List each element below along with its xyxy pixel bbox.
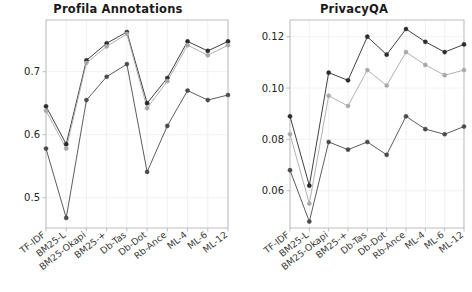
data-point-marker xyxy=(462,68,466,72)
data-point-marker xyxy=(385,83,389,87)
data-point-marker xyxy=(226,93,230,97)
y-tick-label: 0.6 xyxy=(24,129,40,140)
data-point-marker xyxy=(365,68,369,72)
data-point-marker xyxy=(365,140,369,144)
data-point-marker xyxy=(327,71,331,75)
panel-privacyqa: PrivacyQA 0.060.080.100.12TF-IDFBM25-LBM… xyxy=(236,0,472,292)
figure-container: Profila Annotations 0.50.60.7TF-IDFBM25-… xyxy=(0,0,472,292)
data-point-marker xyxy=(423,127,427,131)
data-point-marker xyxy=(423,40,427,44)
data-point-marker xyxy=(346,78,350,82)
data-point-marker xyxy=(44,104,48,108)
data-point-marker xyxy=(84,61,88,65)
y-tick-label: 0.5 xyxy=(24,192,40,203)
y-tick-label: 0.08 xyxy=(262,134,284,145)
data-point-marker xyxy=(385,153,389,157)
data-point-marker xyxy=(443,50,447,54)
data-point-marker xyxy=(165,124,169,128)
data-point-marker xyxy=(185,43,189,47)
data-point-marker xyxy=(105,75,109,79)
data-point-marker xyxy=(185,39,189,43)
data-point-marker xyxy=(165,79,169,83)
data-point-marker xyxy=(84,98,88,102)
data-point-marker xyxy=(226,39,230,43)
data-point-marker xyxy=(288,168,292,172)
data-point-marker xyxy=(105,44,109,48)
series-line xyxy=(46,64,228,218)
data-point-marker xyxy=(206,53,210,57)
data-point-marker xyxy=(327,94,331,98)
data-point-marker xyxy=(44,146,48,150)
data-point-marker xyxy=(125,62,129,66)
data-point-marker xyxy=(462,42,466,46)
data-point-marker xyxy=(185,88,189,92)
data-point-marker xyxy=(206,49,210,53)
data-point-marker xyxy=(443,132,447,136)
series-line xyxy=(46,32,228,144)
data-point-marker xyxy=(64,146,68,150)
y-tick-label: 0.06 xyxy=(262,185,284,196)
data-point-marker xyxy=(64,142,68,146)
data-point-marker xyxy=(365,35,369,39)
data-point-marker xyxy=(385,53,389,57)
data-point-marker xyxy=(327,140,331,144)
data-point-marker xyxy=(423,63,427,67)
series-line xyxy=(290,29,464,186)
chart-canvas-left: 0.50.60.7TF-IDFBM25-LBM25-OkapiBM25-+Db-… xyxy=(0,0,236,292)
data-point-marker xyxy=(307,219,311,223)
plot-frame xyxy=(290,20,464,228)
data-point-marker xyxy=(404,27,408,31)
data-point-marker xyxy=(145,106,149,110)
data-point-marker xyxy=(206,98,210,102)
series-line xyxy=(46,34,228,149)
data-point-marker xyxy=(307,202,311,206)
data-point-marker xyxy=(44,109,48,113)
y-tick-label: 0.7 xyxy=(24,66,40,77)
data-point-marker xyxy=(288,132,292,136)
y-tick-label: 0.12 xyxy=(262,31,284,42)
data-point-marker xyxy=(288,114,292,118)
y-tick-label: 0.10 xyxy=(262,83,284,94)
data-point-marker xyxy=(64,216,68,220)
chart-canvas-right: 0.060.080.100.12TF-IDFBM25-LBM25-OkapiBM… xyxy=(236,0,472,292)
x-tick-label: ML-4 xyxy=(165,229,189,251)
data-point-marker xyxy=(404,50,408,54)
plot-frame xyxy=(46,20,228,228)
data-point-marker xyxy=(226,43,230,47)
series-line xyxy=(290,52,464,204)
data-point-marker xyxy=(145,170,149,174)
data-point-marker xyxy=(125,32,129,36)
x-tick-label: ML-4 xyxy=(402,229,426,251)
data-point-marker xyxy=(145,101,149,105)
series-line xyxy=(290,116,464,221)
data-point-marker xyxy=(462,124,466,128)
data-point-marker xyxy=(443,73,447,77)
panel-profila-annotations: Profila Annotations 0.50.60.7TF-IDFBM25-… xyxy=(0,0,236,292)
data-point-marker xyxy=(346,148,350,152)
data-point-marker xyxy=(404,114,408,118)
data-point-marker xyxy=(307,184,311,188)
data-point-marker xyxy=(346,104,350,108)
